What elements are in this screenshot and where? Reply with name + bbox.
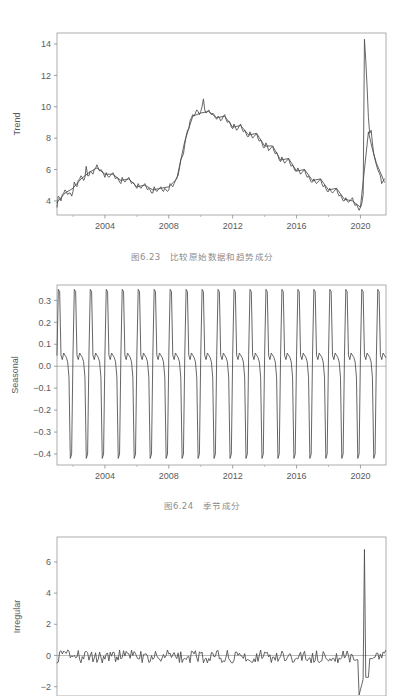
- y-tick-label: 0.3: [38, 296, 51, 306]
- trend-chart: 46810121420042008201220162020Trend: [0, 0, 404, 245]
- x-tick-label: 2012: [223, 471, 243, 481]
- plot-frame: [57, 33, 386, 215]
- series-line-irregular: [57, 549, 386, 694]
- x-tick-label: 2012: [223, 221, 243, 231]
- x-tick-label: 2016: [287, 221, 307, 231]
- caption-seasonal: 图6.24 季节成分: [0, 499, 404, 511]
- y-tick-label: 0.2: [38, 318, 51, 328]
- y-tick-label: 10: [41, 102, 51, 112]
- seasonal-chart: 0.30.20.10.0−0.1−0.2−0.3−0.4200420082012…: [0, 273, 404, 495]
- x-tick-label: 2020: [350, 471, 370, 481]
- series-line-trend: [57, 111, 384, 207]
- figure-seasonal: 0.30.20.10.0−0.1−0.2−0.3−0.4200420082012…: [0, 273, 404, 495]
- x-tick-label: 2020: [350, 221, 370, 231]
- plot-frame: [57, 285, 386, 465]
- x-tick-label: 2008: [159, 471, 179, 481]
- y-tick-label: 14: [41, 39, 51, 49]
- figure-trend: 46810121420042008201220162020Trend: [0, 0, 404, 245]
- y-tick-label: 12: [41, 71, 51, 81]
- y-tick-label: 2: [46, 619, 51, 629]
- y-tick-label: 6: [46, 165, 51, 175]
- x-tick-label: 2004: [95, 221, 115, 231]
- y-tick-label: −0.1: [33, 383, 51, 393]
- y-axis-label: Trend: [12, 112, 22, 135]
- y-tick-label: 0: [46, 651, 51, 661]
- y-tick-label: 8: [46, 133, 51, 143]
- caption-trend: 图6.23 比较原始数据和趋势成分: [0, 250, 404, 262]
- series-line-seasonal: [57, 289, 386, 458]
- y-tick-label: −0.4: [33, 449, 51, 459]
- plot-frame: [57, 537, 386, 696]
- y-tick-label: 0.1: [38, 339, 51, 349]
- y-tick-label: 0.0: [38, 361, 51, 371]
- y-tick-label: 4: [46, 196, 51, 206]
- x-tick-label: 2016: [287, 471, 307, 481]
- x-tick-label: 2004: [95, 471, 115, 481]
- y-tick-label: −0.3: [33, 427, 51, 437]
- y-tick-label: −2: [41, 682, 51, 692]
- y-tick-label: −0.2: [33, 405, 51, 415]
- irregular-chart: 6420−220042008201220162020Irregular: [0, 520, 404, 696]
- y-axis-label: Seasonal: [10, 356, 20, 394]
- x-tick-label: 2008: [159, 221, 179, 231]
- figure-irregular: 6420−220042008201220162020Irregular: [0, 520, 404, 696]
- series-line-original: [57, 39, 384, 210]
- y-tick-label: 6: [46, 557, 51, 567]
- y-tick-label: 4: [46, 588, 51, 598]
- y-axis-label: Irregular: [12, 600, 22, 634]
